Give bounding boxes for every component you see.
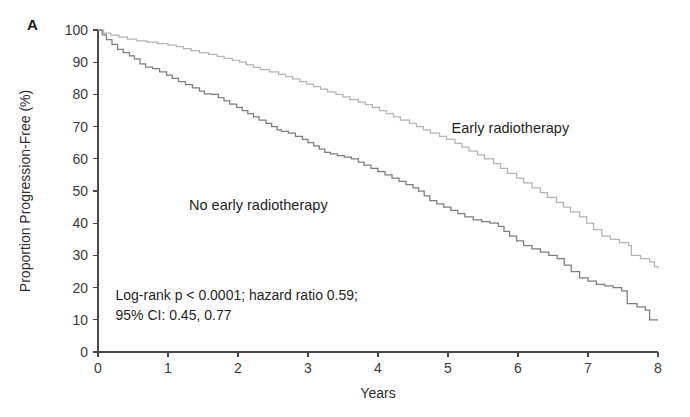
x-tick-label-4: 4: [374, 360, 382, 376]
y-tick-label-10: 10: [72, 312, 88, 328]
y-tick-label-20: 20: [72, 280, 88, 296]
y-tick-label-80: 80: [72, 86, 88, 102]
x-tick-label-3: 3: [304, 360, 312, 376]
x-tick-label-2: 2: [234, 360, 242, 376]
x-tick-label-0: 0: [94, 360, 102, 376]
km-curve-early-radiotherapy: [98, 30, 658, 268]
x-tick-label-7: 7: [584, 360, 592, 376]
figure-panel-a: A 0102030405060708090100 012345678 Propo…: [0, 0, 690, 417]
y-axis-ticks: 0102030405060708090100: [65, 22, 98, 360]
x-tick-label-6: 6: [514, 360, 522, 376]
kaplan-meier-chart: 0102030405060708090100 012345678 Proport…: [0, 0, 690, 417]
y-axis-title: Proportion Progression-Free (%): [17, 90, 33, 292]
chart-annotations: Early radiotherapyNo early radiotherapyL…: [116, 120, 570, 323]
stats-line-1: Log-rank p < 0.0001; hazard ratio 0.59;: [116, 287, 358, 303]
y-tick-label-60: 60: [72, 151, 88, 167]
y-tick-label-100: 100: [65, 22, 89, 38]
no-early-radiotherapy-label: No early radiotherapy: [189, 197, 328, 213]
y-tick-label-50: 50: [72, 183, 88, 199]
y-tick-label-0: 0: [80, 344, 88, 360]
km-curve-no-early-radiotherapy: [98, 30, 658, 320]
y-tick-label-40: 40: [72, 215, 88, 231]
x-axis-title: Years: [360, 385, 395, 401]
x-tick-label-5: 5: [444, 360, 452, 376]
y-tick-label-30: 30: [72, 247, 88, 263]
stats-line-2: 95% CI: 0.45, 0.77: [116, 307, 232, 323]
km-curves-group: [98, 30, 658, 320]
x-tick-label-1: 1: [164, 360, 172, 376]
early-radiotherapy-label: Early radiotherapy: [452, 120, 570, 136]
y-tick-label-70: 70: [72, 119, 88, 135]
x-tick-label-8: 8: [654, 360, 662, 376]
y-tick-label-90: 90: [72, 54, 88, 70]
x-axis-ticks: 012345678: [94, 352, 662, 376]
